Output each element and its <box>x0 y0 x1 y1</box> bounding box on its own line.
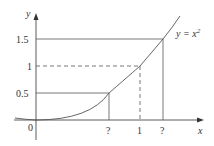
x-tick-1: 1 <box>137 125 142 136</box>
graph: y 1.5 1 0.5 0 ? 1 ? x y = x2 <box>0 0 214 146</box>
curve-label-base: y = x <box>175 28 197 39</box>
y-tick-1: 1 <box>27 61 32 72</box>
x-tick-sqrt-1-5: ? <box>160 125 165 136</box>
x-tick-sqrt-0-5: ? <box>106 125 111 136</box>
y-tick-1-5: 1.5 <box>16 34 29 45</box>
origin-label: 0 <box>28 122 33 133</box>
y-tick-0-5: 0.5 <box>16 88 29 99</box>
guide-1-5 <box>36 39 163 120</box>
curve-label: y = x2 <box>175 27 201 39</box>
curve-label-exponent: 2 <box>197 27 201 35</box>
y-axis-arrow-icon <box>34 13 39 20</box>
x-axis-arrow-icon <box>197 118 204 123</box>
y-axis-label: y <box>25 8 31 19</box>
x-axis-label: x <box>197 125 203 136</box>
parabola-curve <box>15 16 180 120</box>
